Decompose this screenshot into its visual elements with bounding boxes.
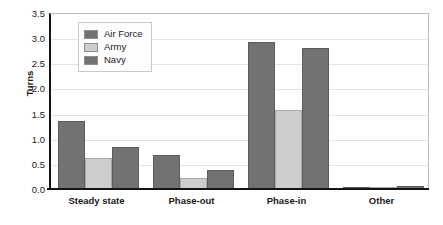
- legend-swatch-icon: [84, 56, 98, 65]
- bar-navy: [302, 48, 329, 189]
- legend-item: Army: [84, 41, 143, 53]
- y-tick-label: 0.0: [5, 184, 45, 195]
- bar-group: [146, 13, 241, 189]
- bar-navy: [207, 170, 234, 189]
- y-tick-label: 1.5: [5, 108, 45, 119]
- x-axis-line: [47, 188, 429, 190]
- y-tick-label: 1.0: [5, 133, 45, 144]
- legend-item: Air Force: [84, 28, 143, 40]
- bar-army: [275, 110, 302, 189]
- y-tick-label: 2.5: [5, 58, 45, 69]
- legend-label: Air Force: [104, 29, 143, 39]
- bar-group: [241, 13, 336, 189]
- y-axis-tick-labels: 3.53.02.52.01.51.00.50.0: [0, 0, 45, 225]
- legend-label: Navy: [104, 55, 126, 65]
- y-tick-label: 2.0: [5, 83, 45, 94]
- bar-air-force: [153, 155, 180, 189]
- y-tick-label: 3.0: [5, 33, 45, 44]
- bar-army: [85, 158, 112, 189]
- y-tick-label: 0.5: [5, 158, 45, 169]
- legend-item: Navy: [84, 54, 143, 66]
- legend-swatch-icon: [84, 30, 98, 39]
- bar-group: [336, 13, 431, 189]
- legend-swatch-icon: [84, 43, 98, 52]
- bar-air-force: [248, 42, 275, 189]
- chart-legend: Air ForceArmyNavy: [78, 22, 152, 72]
- y-tick-label: 3.5: [5, 8, 45, 19]
- x-tick-label: Other: [322, 195, 442, 206]
- bar-air-force: [58, 121, 85, 189]
- bar-chart: Turns 3.53.02.52.01.51.00.50.0 Steady st…: [0, 0, 443, 225]
- legend-label: Army: [104, 42, 126, 52]
- bar-navy: [112, 147, 139, 189]
